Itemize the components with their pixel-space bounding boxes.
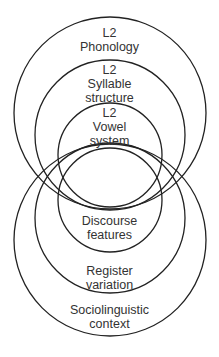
- phonology-label: L2 Phonology: [0, 26, 219, 54]
- label-line: structure: [0, 91, 219, 105]
- label-line: L2: [0, 63, 219, 77]
- label-line: variation: [0, 278, 219, 292]
- label-line: L2: [0, 106, 219, 120]
- label-line: Sociolinguistic: [0, 303, 219, 317]
- label-line: Register: [0, 264, 219, 278]
- label-line: context: [0, 317, 219, 331]
- vowel-system-label: L2 Vowel system: [0, 106, 219, 148]
- label-line: features: [0, 228, 219, 242]
- label-line: Discourse: [0, 214, 219, 228]
- discourse-features-label: Discourse features: [0, 214, 219, 242]
- sociolinguistic-context-label: Sociolinguistic context: [0, 303, 219, 331]
- label-line: Phonology: [0, 40, 219, 54]
- label-line: Vowel: [0, 120, 219, 134]
- label-line: L2: [0, 26, 219, 40]
- register-variation-label: Register variation: [0, 264, 219, 292]
- syllable-structure-label: L2 Syllable structure: [0, 63, 219, 105]
- label-line: Syllable: [0, 77, 219, 91]
- label-line: system: [0, 134, 219, 148]
